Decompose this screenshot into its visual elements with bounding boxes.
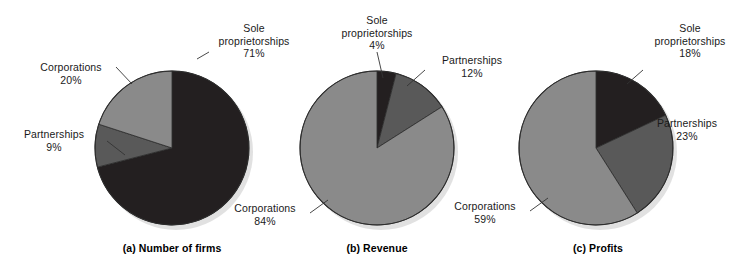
label-b-sole-line1: Sole — [366, 14, 387, 26]
label-c-sole-line2: proprietorships — [655, 35, 726, 47]
label-c-partnerships-value: 23% — [676, 130, 697, 142]
label-c-partnerships: Partnerships 23% — [642, 117, 732, 142]
caption-c: (c) Profits — [518, 242, 678, 254]
label-a-partnerships-name: Partnerships — [24, 128, 84, 140]
label-b-sole-line2: proprietorships — [342, 27, 413, 39]
label-c-corporations-value: 59% — [474, 213, 495, 225]
pie-slices-b — [300, 71, 454, 225]
chart-panel-profits: Sole proprietorships 18% Partnerships 23… — [490, 0, 732, 273]
chart-panel-revenue: Sole proprietorships 4% Partnerships 12%… — [250, 0, 490, 273]
label-c-sole-line1: Sole — [679, 22, 700, 34]
pie-chart-figure: Sole proprietorships 71% Corporations 20… — [0, 0, 732, 273]
label-b-corporations-name: Corporations — [234, 202, 295, 214]
leader-line-a-corporations — [116, 67, 132, 84]
label-c-corporations: Corporations 59% — [442, 200, 528, 225]
label-b-corporations-value: 84% — [254, 215, 275, 227]
label-a-partnerships-value: 9% — [46, 141, 61, 153]
label-c-sole-proprietorships: Sole proprietorships 18% — [642, 22, 732, 60]
label-a-corporations-name: Corporations — [40, 61, 101, 73]
chart-panel-number-of-firms: Sole proprietorships 71% Corporations 20… — [0, 0, 250, 273]
label-a-partnerships: Partnerships 9% — [8, 128, 100, 153]
label-c-sole-value: 18% — [679, 47, 700, 59]
caption-a: (a) Number of firms — [92, 242, 252, 254]
leader-line-b-corporations — [310, 200, 328, 213]
label-a-corporations: Corporations 20% — [28, 61, 114, 86]
label-b-partnerships-value: 12% — [461, 67, 482, 79]
label-a-corporations-value: 20% — [60, 74, 81, 86]
label-c-partnerships-name: Partnerships — [657, 117, 717, 129]
caption-b: (b) Revenue — [297, 242, 457, 254]
label-c-corporations-name: Corporations — [454, 200, 515, 212]
label-b-sole-value: 4% — [369, 39, 384, 51]
label-b-sole-proprietorships: Sole proprietorships 4% — [329, 14, 425, 52]
label-b-corporations: Corporations 84% — [222, 202, 308, 227]
